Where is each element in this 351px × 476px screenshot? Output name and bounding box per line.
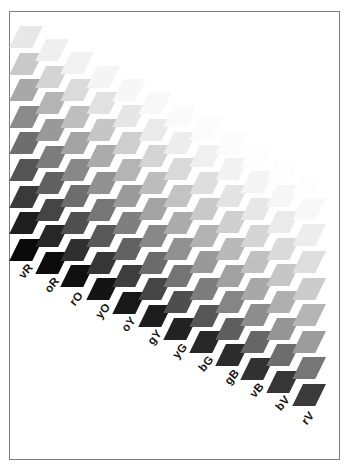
swatch-yG-1 (163, 105, 197, 127)
column-label-bV: bV (273, 394, 292, 413)
swatch-bG-1 (189, 118, 223, 140)
swatch-rV-5 (292, 278, 326, 300)
column-label-oY: oY (119, 314, 138, 333)
swatch-oY-1 (112, 79, 146, 101)
swatch-bV-1 (266, 158, 300, 180)
column-label-oR: oR (42, 274, 61, 294)
swatch-yO-1 (86, 66, 120, 88)
column-label-bG: bG (196, 353, 216, 373)
swatch-rV-1 (292, 171, 326, 193)
swatch-gB-1 (215, 132, 249, 154)
swatch-gY-1 (138, 92, 172, 114)
chart-page: vRoRrOyOoYgYyGbGgBvBbVrV (0, 0, 351, 476)
swatch-rV-8 (292, 357, 326, 379)
swatch-rV-3 (292, 224, 326, 246)
swatch-rO-1 (61, 52, 95, 74)
swatch-rV-4 (292, 251, 326, 273)
swatch-vB-1 (241, 145, 275, 167)
column-label-vB: vB (247, 380, 266, 399)
swatch-vR-1 (9, 26, 43, 48)
swatch-rV-2 (292, 198, 326, 220)
column-label-vR: vR (16, 262, 35, 281)
swatch-rV-7 (292, 331, 326, 353)
column-label-rO: rO (67, 289, 85, 307)
swatch-rV-6 (292, 304, 326, 326)
value-scale-matrix: vRoRrOyOoYgYyGbGgBvBbVrV (0, 0, 351, 476)
column-label-yO: yO (93, 301, 112, 321)
column-label-rV: rV (299, 409, 316, 426)
column-label-gY: gY (145, 328, 164, 347)
column-label-yG: yG (170, 340, 189, 360)
column-label-gB: gB (222, 367, 241, 387)
swatch-rV-9 (292, 384, 326, 406)
swatch-oR-1 (35, 39, 69, 61)
